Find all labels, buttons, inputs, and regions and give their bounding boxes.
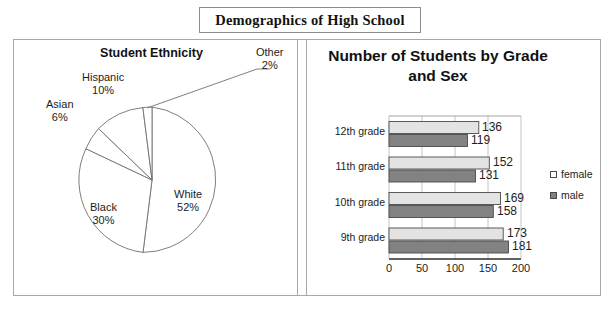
category-label-10th-grade: 10th grade: [307, 196, 385, 208]
pie-label-asian: Asian 6%: [46, 98, 74, 123]
bar-11th-female: [389, 157, 489, 169]
legend-item-male: male: [550, 189, 606, 201]
bar-9th-female: [389, 228, 503, 240]
legend-label-female: female: [561, 168, 593, 180]
xtick-label-50: 50: [412, 262, 432, 274]
bar-chart-panel: Number of Students by Grade and Sex: [297, 40, 602, 295]
value-label-12th-female: 136: [482, 120, 502, 134]
legend-swatch-female: [550, 171, 557, 178]
value-label-10th-male: 158: [497, 204, 517, 218]
value-label-9th-male: 181: [512, 239, 532, 253]
page-title-box: Demographics of High School: [199, 7, 421, 33]
pie-label-white: White 52%: [174, 188, 202, 213]
legend-label-male: male: [561, 189, 584, 201]
pie-label-black: Black 30%: [90, 201, 117, 226]
legend-item-female: female: [550, 168, 606, 180]
page-title: Demographics of High School: [215, 12, 404, 29]
bar-chart-panel-inner: Number of Students by Grade and Sex: [306, 40, 602, 295]
pie-chart-panel: Student Ethnicity White 52% Black 30% A: [14, 40, 289, 295]
value-label-9th-female: 173: [507, 226, 527, 240]
pie-chart-graphic: [14, 40, 289, 295]
pie-label-other: Other 2%: [256, 46, 284, 71]
xtick-label-0: 0: [379, 262, 399, 274]
pie-label-hispanic: Hispanic 10%: [82, 71, 124, 96]
pie-slice-white: [143, 107, 216, 252]
category-label-9th-grade: 9th grade: [307, 231, 385, 243]
bar-chart-legend: female male: [550, 168, 606, 210]
bar-10th-male: [389, 206, 493, 218]
bar-10th-female: [389, 193, 501, 205]
xtick-label-150: 150: [476, 262, 500, 274]
pie-leader-line-other: [147, 69, 270, 108]
value-label-10th-female: 169: [504, 191, 524, 205]
value-label-11th-female: 152: [493, 155, 513, 169]
category-label-12th-grade: 12th grade: [307, 125, 385, 137]
xtick-label-200: 200: [509, 262, 533, 274]
value-label-11th-male: 131: [479, 168, 499, 182]
bar-12th-female: [389, 122, 479, 134]
charts-frame: Student Ethnicity White 52% Black 30% A: [13, 39, 601, 296]
legend-swatch-male: [550, 192, 557, 199]
value-label-12th-male: 119: [471, 133, 490, 147]
bar-11th-male: [389, 170, 476, 182]
xtick-label-100: 100: [443, 262, 467, 274]
category-label-11th-grade: 11th grade: [307, 160, 385, 172]
bar-9th-male: [389, 241, 509, 253]
bar-plot-area: 12th grade 11th grade 10th grade 9th gra…: [307, 40, 603, 295]
bar-12th-male: [389, 135, 468, 147]
